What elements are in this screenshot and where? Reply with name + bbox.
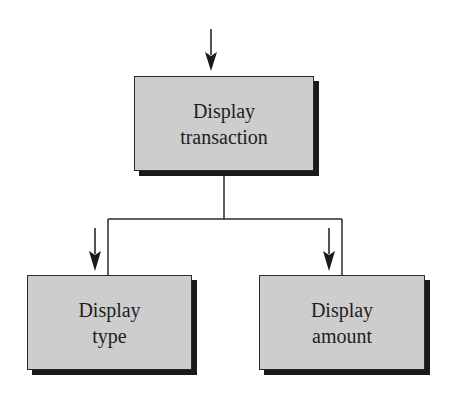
entry-arrow-right	[323, 228, 335, 271]
structure-chart-diagram: Display transaction Display type Display…	[0, 0, 453, 399]
node-display-amount: Display amount	[259, 275, 425, 370]
entry-arrow-top	[205, 29, 217, 71]
entry-arrow-left	[89, 228, 101, 271]
node-display-type: Display type	[27, 275, 192, 370]
node-label-line2: transaction	[180, 124, 268, 150]
node-label-line2: amount	[312, 323, 372, 349]
node-label-line1: Display	[311, 297, 373, 323]
node-label-line1: Display	[78, 297, 140, 323]
node-display-transaction: Display transaction	[134, 76, 314, 171]
node-label-line1: Display	[193, 98, 255, 124]
hierarchy-connector	[108, 172, 342, 275]
node-label-line2: type	[92, 323, 126, 349]
